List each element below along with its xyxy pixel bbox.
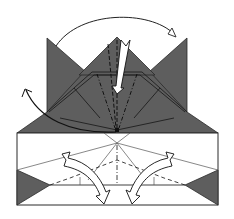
origami-fold-diagram — [0, 0, 234, 219]
pivot-point — [115, 128, 119, 132]
